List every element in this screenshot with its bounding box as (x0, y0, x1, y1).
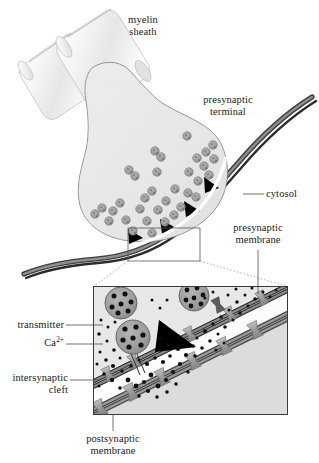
synapse-inset-panel (66, 250, 292, 431)
label-presynaptic-terminal: presynapticterminal (180, 94, 276, 117)
label-transmitter: transmitter (0, 319, 64, 331)
calcium-charge: 2+ (56, 336, 64, 344)
synapse-diagram-figure: myelinsheath presynapticterminal cytosol… (0, 0, 319, 463)
label-myelin-sheath: myelinsheath (105, 14, 181, 37)
calcium-symbol: Ca (44, 337, 56, 348)
label-postsynaptic-membrane: postsynapticmembrane (65, 433, 161, 456)
label-calcium-ion: Ca2+ (0, 337, 64, 349)
label-cytosol: cytosol (266, 188, 297, 200)
label-presynaptic-membrane: presynapticmembrane (210, 222, 306, 245)
label-intersynaptic-cleft: intersynapticcleft (0, 372, 68, 395)
